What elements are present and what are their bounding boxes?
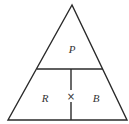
- multiply-operator: ×: [67, 91, 75, 102]
- formula-triangle: P R × B: [0, 0, 129, 124]
- bottom-left-label: R: [41, 92, 49, 104]
- triangle-outline: [8, 5, 127, 120]
- top-label: P: [68, 43, 76, 55]
- bottom-right-label: B: [93, 92, 100, 104]
